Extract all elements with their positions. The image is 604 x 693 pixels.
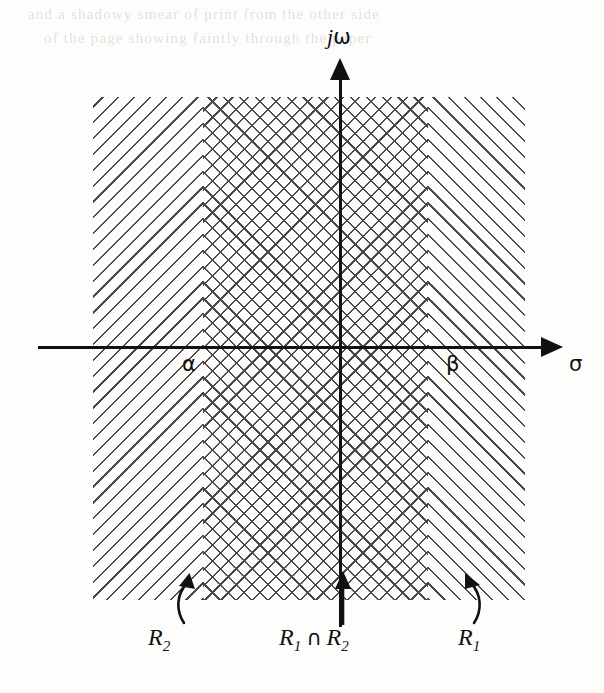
region-label-r2: R2	[148, 624, 170, 655]
bleed-through-text-line-1: and a shadowy smear of print from the ot…	[28, 6, 380, 23]
sigma-axis-line	[38, 346, 552, 349]
region-label-intersect-subscript-2: 2	[341, 638, 349, 654]
region-label-r1-subscript: 1	[473, 638, 481, 654]
leader-arrow-intersection-icon	[328, 565, 358, 627]
point-label-beta: β	[446, 352, 459, 376]
bleed-through-text-line-2: of the page showing faintly through the …	[44, 30, 372, 47]
point-label-alpha: α	[182, 352, 196, 376]
leader-arrow-r2-icon	[150, 565, 220, 627]
region-label-intersect-base-2: R	[327, 624, 342, 650]
region-label-r2-subscript: 2	[163, 638, 171, 654]
leader-arrow-r1-icon	[450, 565, 520, 627]
sigma-axis-arrowhead-icon	[541, 337, 563, 357]
jomega-axis-label-omega: ω	[333, 25, 351, 49]
region-label-r1-intersect-r2: R1∩R2	[279, 624, 349, 655]
intersection-operator-icon: ∩	[301, 626, 326, 650]
figure-canvas: and a shadowy smear of print from the ot…	[0, 0, 604, 693]
jomega-axis-line	[339, 70, 342, 627]
region-label-r1: R1	[458, 624, 480, 655]
region-label-intersect-base-1: R	[279, 624, 294, 650]
jomega-axis-label: jω	[327, 24, 351, 50]
sigma-axis-label: σ	[569, 352, 582, 376]
region-label-r2-base: R	[148, 624, 163, 650]
region-label-r1-base: R	[458, 624, 473, 650]
jomega-axis-arrowhead-icon	[330, 58, 350, 80]
